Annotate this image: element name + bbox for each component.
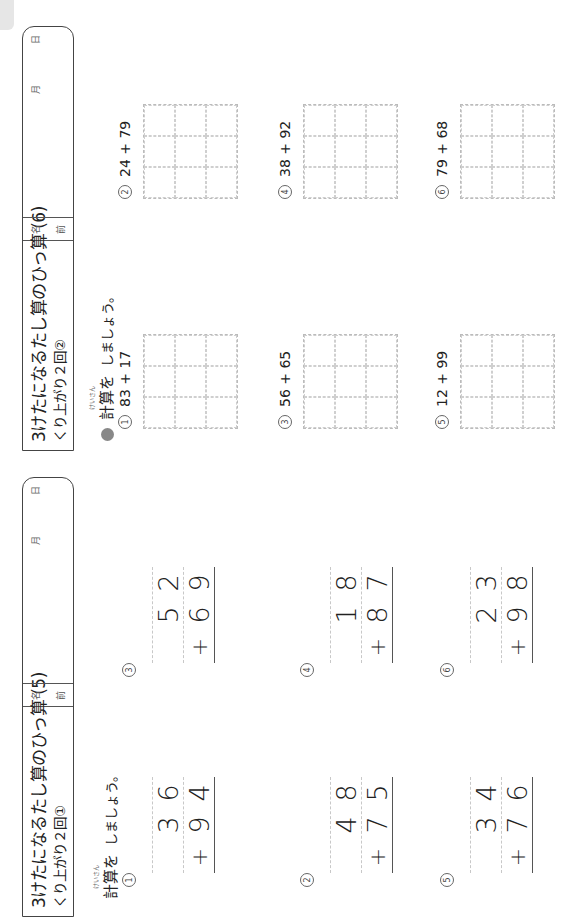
- title-box: 3けたになるたし算のひっ算 (5) くり上がり２回①: [23, 706, 73, 916]
- digit: 6: [502, 777, 533, 809]
- date-day-label: 日: [31, 35, 41, 44]
- digit: 7: [362, 567, 393, 599]
- plus-sign: +: [187, 841, 212, 873]
- name-label-top: 名: [29, 691, 42, 700]
- date-month-label: 月: [31, 536, 41, 545]
- digit: 3: [471, 809, 502, 841]
- column-addition: 48 +75: [330, 777, 423, 873]
- problem-expression: 24 + 79: [117, 121, 133, 177]
- plus-sign: +: [365, 631, 390, 663]
- digit: 6: [153, 777, 184, 809]
- column-addition: 52 +69: [152, 567, 245, 663]
- answer-line[interactable]: [392, 777, 423, 873]
- addend-top-row: 52: [152, 567, 183, 663]
- problem-number: 3: [278, 415, 292, 429]
- problem-4: 438 + 92: [275, 79, 398, 199]
- worksheet-title: 3けたになるたし算のひっ算 (6): [29, 241, 49, 442]
- title-box: 3けたになるたし算のひっ算 (6) くり上がり２回②: [23, 240, 73, 450]
- ruby-reading: けいさん: [88, 386, 95, 410]
- digit: 8: [502, 567, 533, 599]
- problem-number: 1: [118, 415, 132, 429]
- name-label: 名 前: [23, 683, 73, 706]
- problem-number: 1: [122, 873, 136, 887]
- addend-bottom-row: +94: [183, 777, 214, 873]
- answer-line[interactable]: [392, 567, 423, 663]
- date-day-label: 日: [31, 486, 41, 495]
- addend-bottom-row: +75: [361, 777, 392, 873]
- problem-number: 5: [435, 415, 449, 429]
- problem-5: 512 + 99: [432, 309, 555, 429]
- instruction-word: 計算を: [95, 375, 116, 420]
- worksheet-5: 3けたになるたし算のひっ算 (5) くり上がり２回① 名 前 月 日 けいさん …: [0, 477, 581, 917]
- answer-grid[interactable]: [303, 334, 398, 429]
- plus-sign: +: [505, 631, 530, 663]
- instruction-rest: しましょう。: [101, 769, 120, 846]
- plus-sign: +: [187, 631, 212, 663]
- worksheet-header: 3けたになるたし算のひっ算 (6) くり上がり２回② 名 前 月 日: [22, 26, 74, 451]
- digit: 7: [502, 809, 533, 841]
- problem-number: 4: [300, 663, 314, 677]
- addend-top-row: 34: [470, 777, 501, 873]
- digit: 8: [331, 777, 362, 809]
- answer-line[interactable]: [532, 777, 563, 873]
- name-label-bottom: 前: [54, 691, 67, 700]
- digit: 3: [471, 567, 502, 599]
- instruction: けいさん 計算を しましょう。: [88, 290, 116, 441]
- digit: 5: [153, 599, 184, 631]
- problem-2: 224 + 79: [115, 79, 238, 199]
- answer-line[interactable]: [214, 777, 245, 873]
- problem-number: 2: [118, 185, 132, 199]
- addend-top-row: 48: [330, 777, 361, 873]
- problem-number: 4: [278, 185, 292, 199]
- addend-top-row: 18: [330, 567, 361, 663]
- name-label-bottom: 前: [54, 225, 67, 234]
- addend-bottom-row: +69: [183, 567, 214, 663]
- answer-grid[interactable]: [143, 334, 238, 429]
- date-month-label: 月: [31, 85, 41, 94]
- column-addition: 23 +98: [470, 567, 563, 663]
- column-addition: 36 +94: [152, 777, 245, 873]
- worksheet-title: 3けたになるたし算のひっ算 (5): [29, 707, 49, 908]
- answer-grid[interactable]: [303, 104, 398, 199]
- digit: 6: [184, 599, 215, 631]
- digit: 8: [331, 567, 362, 599]
- worksheet-header: 3けたになるたし算のひっ算 (5) くり上がり２回① 名 前 月 日: [22, 477, 74, 917]
- answer-grid[interactable]: [460, 334, 555, 429]
- instruction-ruby-word: けいさん 計算を: [88, 375, 116, 420]
- digit: 1: [331, 599, 362, 631]
- problem-6: 679 + 68: [432, 79, 555, 199]
- name-label: 名 前: [23, 217, 73, 240]
- digit: 5: [362, 777, 393, 809]
- problem-expression: 56 + 65: [277, 351, 293, 407]
- column-addition: 34 +76: [470, 777, 563, 873]
- digit: 2: [153, 567, 184, 599]
- problem-3: 356 + 65: [275, 309, 398, 429]
- plus-sign: +: [505, 841, 530, 873]
- addend-top-row: 36: [152, 777, 183, 873]
- digit: 9: [184, 809, 215, 841]
- answer-grid[interactable]: [143, 104, 238, 199]
- problem-number: 6: [435, 185, 449, 199]
- answer-grid[interactable]: [460, 104, 555, 199]
- problem-expression: 83 + 17: [117, 351, 133, 407]
- problem-number: 6: [440, 663, 454, 677]
- ruby-reading: けいさん: [92, 865, 99, 889]
- digit: 4: [331, 809, 362, 841]
- plus-sign: +: [365, 841, 390, 873]
- digit: 4: [184, 777, 215, 809]
- problem-expression: 38 + 92: [277, 121, 293, 177]
- answer-line[interactable]: [532, 567, 563, 663]
- worksheet-6: 3けたになるたし算のひっ算 (6) くり上がり２回② 名 前 月 日 けいさん …: [0, 26, 581, 451]
- addend-bottom-row: +76: [501, 777, 532, 873]
- digit: 9: [184, 567, 215, 599]
- addend-bottom-row: +98: [501, 567, 532, 663]
- digit: 4: [471, 777, 502, 809]
- problem-number: 2: [300, 873, 314, 887]
- worksheet-subtitle: くり上がり２回①: [51, 707, 69, 908]
- digit: 9: [502, 599, 533, 631]
- addend-bottom-row: +87: [361, 567, 392, 663]
- worksheet-subtitle: くり上がり２回②: [51, 241, 69, 442]
- problem-expression: 79 + 68: [434, 121, 450, 177]
- answer-line[interactable]: [214, 567, 245, 663]
